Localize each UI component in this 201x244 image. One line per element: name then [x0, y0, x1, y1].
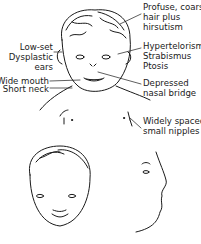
leader-lines [50, 14, 141, 128]
label-eyes: Hypertelorism Strabismus Ptosis [143, 41, 201, 71]
label-hair: Profuse, coarse hair plus hirsutism [143, 2, 201, 32]
face-front-figure [29, 146, 90, 226]
face-profile-figure [136, 152, 166, 232]
label-nose: Depressed nasal bridge [143, 78, 196, 98]
label-ears: Low-set Dysplastic ears [9, 42, 53, 72]
infant-front-figure [40, 10, 150, 126]
label-nipples: Widely spaced, small nipples [143, 116, 201, 136]
label-neck: Short neck [3, 84, 49, 94]
